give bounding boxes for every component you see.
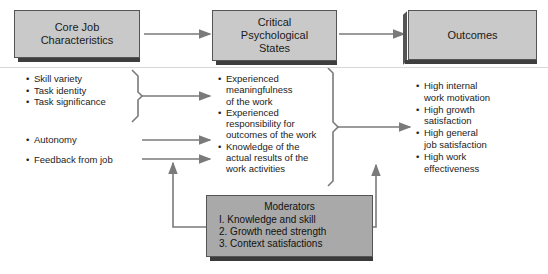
moderator-item: 3. Context satisfactions [219, 238, 372, 250]
core-box-label-2: Characteristics [41, 34, 114, 47]
moderator-arrow-left [173, 163, 206, 227]
outcomes-box-label: Outcomes [447, 29, 497, 42]
list-item: Skill variety [26, 73, 106, 85]
box-side [403, 11, 407, 64]
psychological-states-list: Experienced meaningfulness of the work E… [218, 73, 316, 175]
critical-box-label-1: Critical [241, 16, 308, 29]
autonomy-item: Autonomy [26, 134, 77, 145]
outcome-line: High growth [424, 104, 490, 116]
list-item: Experienced meaningfulness of the work [218, 73, 316, 107]
list-item: High growth satisfaction [416, 104, 490, 128]
outcomes-box: Outcomes [408, 10, 537, 60]
list-item: High general job satisfaction [416, 127, 490, 151]
outcome-line: effectiveness [424, 163, 490, 175]
list-item: Knowledge of the actual results of the w… [218, 141, 316, 175]
outcome-line: High internal [424, 80, 490, 92]
feedback-item: Feedback from job [26, 154, 113, 165]
state-line: outcomes of the work [226, 129, 316, 140]
core-characteristics-list: Skill variety Task identity Task signifi… [26, 73, 106, 108]
state-line: Knowledge of the [226, 141, 316, 152]
list-item: Task significance [26, 96, 106, 108]
moderator-arrow-right [373, 165, 376, 227]
box-shadow [210, 257, 373, 261]
core-box-label-1: Core Job [41, 21, 114, 34]
list-item: Experienced responsibility for outcomes … [218, 107, 316, 141]
outcome-line: satisfaction [424, 115, 490, 127]
moderators-title: Moderators [207, 201, 372, 213]
state-line: of the work [226, 96, 316, 107]
outcomes-list: High internal work motivation High growt… [416, 80, 490, 174]
state-line: Experienced [226, 73, 316, 84]
box-shadow [18, 58, 140, 62]
state-line: responsibility for [226, 118, 316, 129]
outcome-line: job satisfaction [424, 139, 490, 151]
state-line: actual results of the [226, 152, 316, 163]
outcome-line: High general [424, 127, 490, 139]
list-item: High internal work motivation [416, 80, 490, 104]
moderator-item: I. Knowledge and skill [219, 214, 372, 226]
list-item: Task identity [26, 85, 106, 97]
moderators-list: I. Knowledge and skill 2. Growth need st… [207, 214, 372, 250]
critical-psychological-states-box: Critical Psychological States [212, 10, 337, 61]
outcome-line: High work [424, 151, 490, 163]
outcome-line: work motivation [424, 92, 490, 104]
box-shadow [216, 61, 337, 65]
moderators-box: Moderators I. Knowledge and skill 2. Gro… [206, 195, 373, 257]
state-line: meaningfulness [226, 84, 316, 95]
state-line: work activities [226, 163, 316, 174]
left-bracket [132, 70, 142, 122]
separator-line [0, 67, 548, 68]
list-item: High work effectiveness [416, 151, 490, 175]
critical-box-label-2: Psychological [241, 29, 308, 42]
core-job-characteristics-box: Core Job Characteristics [14, 10, 140, 58]
right-bracket [328, 68, 338, 186]
state-line: Experienced [226, 107, 316, 118]
box-shadow [405, 60, 537, 64]
critical-box-label-3: States [241, 42, 308, 55]
moderator-item: 2. Growth need strength [219, 226, 372, 238]
